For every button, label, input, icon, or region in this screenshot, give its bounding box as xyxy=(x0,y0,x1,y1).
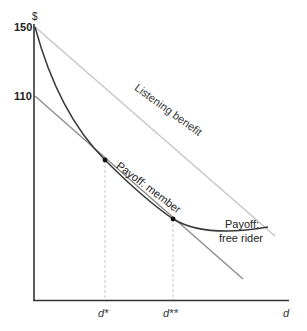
d-star2-marker xyxy=(171,217,176,222)
x-tick-d-star: d* xyxy=(98,308,108,319)
chart-canvas xyxy=(0,0,307,331)
y-unit-label: $ xyxy=(32,12,38,22)
free-rider-label-2: free rider xyxy=(208,233,274,244)
y-tick-110: 110 xyxy=(14,91,32,102)
x-tick-d-star2: d** xyxy=(163,308,178,319)
y-tick-150: 150 xyxy=(14,22,32,33)
free-rider-label-1: Payoff: xyxy=(217,219,267,230)
x-axis-label: d xyxy=(283,308,289,319)
d-star-marker xyxy=(103,158,108,163)
